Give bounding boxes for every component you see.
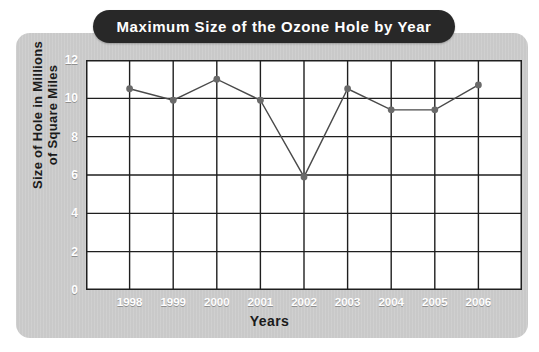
x-tick-label: 1998 (106, 296, 154, 308)
x-tick-label: 2005 (411, 296, 459, 308)
x-tick-label: 2003 (324, 296, 372, 308)
x-axis-tick-labels: 199819992000200120022003200420052006 (0, 0, 539, 352)
chart-figure: Maximum Size of the Ozone Hole by Year S… (0, 0, 539, 352)
x-tick-label: 2002 (280, 296, 328, 308)
x-tick-label: 2006 (454, 296, 502, 308)
x-tick-label: 1999 (149, 296, 197, 308)
x-tick-label: 2000 (193, 296, 241, 308)
x-axis-title: Years (0, 313, 539, 329)
chart-title: Maximum Size of the Ozone Hole by Year (116, 18, 431, 35)
chart-title-pill: Maximum Size of the Ozone Hole by Year (93, 10, 455, 43)
x-tick-label: 2004 (367, 296, 415, 308)
x-tick-label: 2001 (236, 296, 284, 308)
